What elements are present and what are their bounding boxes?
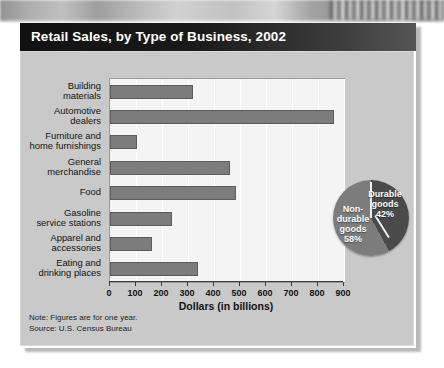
- x-tick-mark: [109, 282, 110, 286]
- bar: [110, 262, 198, 276]
- note-line-2: Source: U.S. Census Bureau: [29, 324, 138, 335]
- x-tick-mark: [265, 282, 266, 286]
- bar-row: [110, 110, 344, 124]
- bar-row: [110, 186, 344, 200]
- bar-row: [110, 237, 344, 251]
- gridline: [344, 79, 345, 282]
- category-label: Food: [0, 187, 101, 197]
- x-tick-mark: [187, 282, 188, 286]
- bar-row: [110, 135, 344, 149]
- chart-panel: BuildingmaterialsAutomotivedealersFurnit…: [20, 51, 414, 346]
- category-label: Apparel andaccessories: [0, 233, 101, 253]
- bar-row: [110, 212, 344, 226]
- bar: [110, 186, 236, 200]
- chart-card: Retail Sales, by Type of Business, 2002 …: [20, 23, 416, 348]
- screenshot-root: Retail Sales, by Type of Business, 2002 …: [0, 0, 444, 368]
- bar: [110, 85, 193, 99]
- x-axis-line: [109, 281, 343, 282]
- bar-series: [110, 79, 344, 282]
- x-tick-mark: [213, 282, 214, 286]
- bar: [110, 161, 230, 175]
- plot-area: [109, 78, 345, 283]
- category-label: Buildingmaterials: [0, 81, 101, 101]
- bar-row: [110, 85, 344, 99]
- x-axis-title: Dollars (in billions): [109, 300, 343, 312]
- x-tick-mark: [161, 282, 162, 286]
- x-tick-mark: [291, 282, 292, 286]
- x-tick-mark: [343, 282, 344, 286]
- card-titlebar: Retail Sales, by Type of Business, 2002: [20, 23, 416, 51]
- note-line-1: Note: Figures are for one year.: [29, 313, 138, 324]
- category-label: Gasolineservice stations: [0, 208, 101, 228]
- bar-row: [110, 161, 344, 175]
- page-title: Retail Sales, by Type of Business, 2002: [31, 29, 286, 44]
- category-label: Automotivedealers: [0, 106, 101, 126]
- x-tick-label: 900: [328, 288, 358, 298]
- bar-row: [110, 262, 344, 276]
- x-tick-mark: [135, 282, 136, 286]
- x-tick-mark: [239, 282, 240, 286]
- category-label: Furniture andhome furnishings: [0, 131, 101, 151]
- category-label: Generalmerchandise: [0, 157, 101, 177]
- bar: [110, 135, 137, 149]
- bar: [110, 110, 334, 124]
- bar: [110, 237, 152, 251]
- bar: [110, 212, 172, 226]
- category-label: Eating anddrinking places: [0, 258, 101, 278]
- pie-label-nondurable-goods: Non-durablegoods58%: [331, 204, 375, 244]
- chart-note: Note: Figures are for one year. Source: …: [29, 313, 138, 334]
- x-tick-mark: [317, 282, 318, 286]
